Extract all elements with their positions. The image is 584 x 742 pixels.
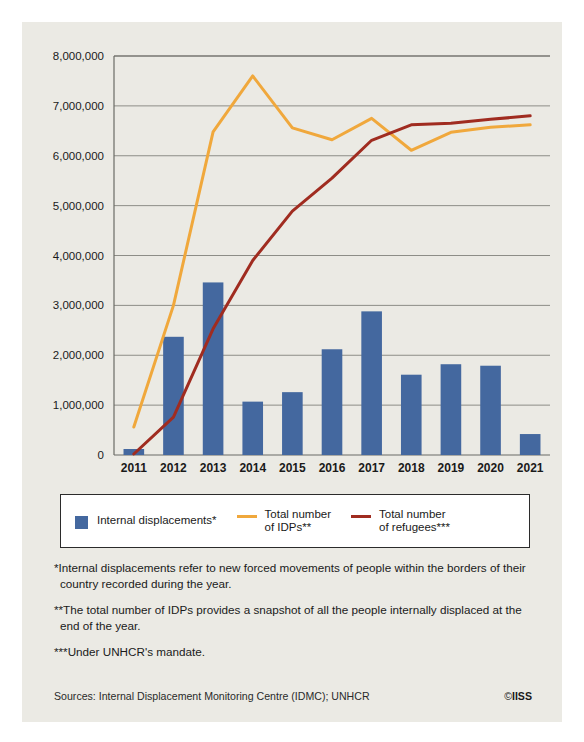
y-axis-tick-label: 6,000,000 bbox=[53, 150, 104, 162]
sources-text: Sources: Internal Displacement Monitorin… bbox=[54, 690, 370, 702]
y-axis-tick-label: 1,000,000 bbox=[53, 399, 104, 411]
legend-swatch-line-icon bbox=[351, 515, 371, 518]
sources-row: Sources: Internal Displacement Monitorin… bbox=[54, 690, 532, 702]
y-axis-tick-label: 8,000,000 bbox=[53, 50, 104, 62]
x-axis-tick-label: 2016 bbox=[319, 461, 346, 472]
figure-panel: 01,000,0002,000,0003,000,0004,000,0005,0… bbox=[22, 22, 562, 722]
footnote-2: **The total number of IDPs provides a sn… bbox=[54, 602, 532, 633]
chart-plot-area: 01,000,0002,000,0003,000,0004,000,0005,0… bbox=[22, 22, 562, 472]
bar-internal-displacements bbox=[361, 311, 382, 455]
bar-internal-displacements bbox=[282, 392, 303, 455]
x-axis-tick-label: 2011 bbox=[121, 461, 147, 472]
bar-internal-displacements bbox=[480, 366, 501, 455]
copyright-symbol: © bbox=[504, 690, 512, 702]
legend-entry: Internal displacements* bbox=[75, 514, 217, 529]
legend-swatch-line-icon bbox=[237, 515, 257, 518]
y-axis-tick-label: 4,000,000 bbox=[53, 250, 104, 262]
legend-label: Total number of IDPs** bbox=[265, 508, 331, 535]
x-axis-tick-label: 2017 bbox=[358, 461, 385, 472]
bar-internal-displacements bbox=[441, 364, 462, 455]
x-axis-tick-label: 2018 bbox=[398, 461, 425, 472]
x-axis-tick-label: 2015 bbox=[279, 461, 306, 472]
footnote-1: *Internal displacements refer to new for… bbox=[54, 560, 532, 591]
x-axis-labels-group: 2011201220132014201520162017201820192020… bbox=[121, 461, 544, 472]
copyright-name: IISS bbox=[512, 690, 532, 702]
legend-entry: Total number of refugees*** bbox=[351, 508, 450, 535]
legend-swatch-box-icon bbox=[75, 516, 88, 529]
y-axis-tick-label: 2,000,000 bbox=[53, 349, 104, 361]
legend-label: Total number of refugees*** bbox=[379, 508, 450, 535]
footnote-3: ***Under UNHCR's mandate. bbox=[54, 644, 532, 660]
footnotes-block: *Internal displacements refer to new for… bbox=[54, 560, 532, 671]
displacement-chart-svg: 01,000,0002,000,0003,000,0004,000,0005,0… bbox=[22, 22, 562, 472]
x-axis-tick-label: 2021 bbox=[517, 461, 544, 472]
chart-legend: Internal displacements*Total number of I… bbox=[60, 494, 530, 548]
x-axis-tick-label: 2013 bbox=[200, 461, 227, 472]
legend-label: Internal displacements* bbox=[97, 514, 217, 528]
bar-series-group bbox=[124, 282, 541, 455]
y-axis-labels-group: 01,000,0002,000,0003,000,0004,000,0005,0… bbox=[53, 50, 104, 461]
bar-internal-displacements bbox=[203, 282, 224, 455]
x-axis-tick-label: 2019 bbox=[438, 461, 465, 472]
bar-internal-displacements bbox=[322, 349, 343, 455]
bar-internal-displacements bbox=[401, 375, 422, 455]
x-axis-tick-label: 2020 bbox=[477, 461, 504, 472]
bar-internal-displacements bbox=[520, 434, 541, 455]
bar-internal-displacements bbox=[242, 402, 263, 455]
copyright-mark: ©IISS bbox=[504, 690, 532, 702]
y-axis-tick-label: 3,000,000 bbox=[53, 299, 104, 311]
y-axis-tick-label: 5,000,000 bbox=[53, 200, 104, 212]
x-axis-tick-label: 2014 bbox=[239, 461, 266, 472]
y-axis-tick-label: 0 bbox=[98, 449, 104, 461]
y-axis-tick-label: 7,000,000 bbox=[53, 100, 104, 112]
bar-internal-displacements bbox=[163, 337, 184, 455]
legend-entry: Total number of IDPs** bbox=[237, 508, 331, 535]
x-axis-tick-label: 2012 bbox=[160, 461, 187, 472]
